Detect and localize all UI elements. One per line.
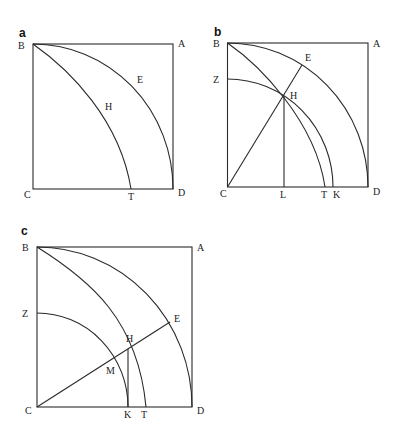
panel-label-b: b (214, 25, 221, 39)
line-che-b (228, 65, 303, 187)
point-label-c: C (25, 405, 32, 416)
arc-bed-b (228, 43, 369, 187)
point-label-b: B (18, 40, 25, 51)
point-label-h: H (105, 101, 112, 112)
square-b (228, 43, 369, 187)
panel-label-c: c (21, 224, 28, 238)
point-label-d: D (197, 405, 204, 416)
point-label-k: K (333, 189, 341, 200)
point-label-e: E (305, 52, 311, 63)
square-c (37, 247, 192, 407)
point-label-c: C (220, 188, 227, 199)
point-label-m: M (106, 365, 115, 376)
quadratrix-bht-b (228, 43, 326, 187)
point-label-t: T (321, 189, 327, 200)
quadratrix-bht-a (33, 44, 131, 189)
point-label-e: E (174, 313, 180, 324)
point-label-c: C (24, 189, 31, 200)
point-label-l: L (280, 189, 286, 200)
panel-b: b B A E Z H C L T K D (213, 25, 381, 200)
point-label-z: Z (213, 74, 219, 85)
arc-zmk-c (37, 313, 128, 407)
point-label-a: A (373, 38, 381, 49)
panel-c: c B A Z E H M C K T D (21, 224, 205, 420)
point-label-a: A (178, 38, 186, 49)
point-label-a: A (197, 242, 205, 253)
line-cmhe-c (37, 322, 170, 407)
point-label-t: T (128, 191, 134, 202)
quadratrix-bht-c (37, 247, 146, 407)
quadratrix-figure: a B A E H C T D b B A E Z H C L T K D c (0, 0, 398, 442)
point-label-h: H (126, 333, 133, 344)
panel-a: a B A E H C T D (18, 26, 186, 202)
point-label-b: B (22, 242, 29, 253)
point-label-h: H (290, 90, 297, 101)
arc-zhk-b (228, 79, 334, 187)
point-label-e: E (137, 74, 143, 85)
arc-bed-c (37, 247, 192, 407)
point-label-z: Z (22, 308, 28, 319)
point-label-k: K (124, 409, 132, 420)
point-label-b: B (213, 38, 220, 49)
point-label-t: T (141, 409, 147, 420)
panel-label-a: a (19, 26, 26, 40)
point-label-d: D (178, 187, 185, 198)
point-label-d: D (373, 186, 380, 197)
